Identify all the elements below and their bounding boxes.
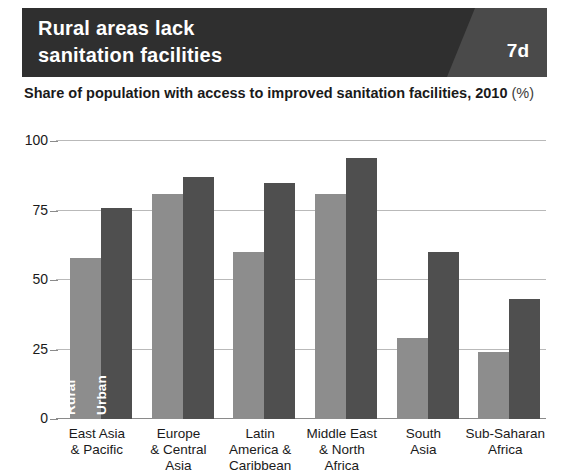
bar-rural[interactable] (233, 252, 264, 419)
bar-urban[interactable]: Urban (101, 208, 132, 419)
legend-label: Urban (94, 375, 109, 415)
bar-urban[interactable] (264, 183, 295, 419)
y-axis-tick-mark (50, 419, 58, 420)
y-axis-tick-mark (50, 280, 58, 281)
plot-area: RuralUrban (56, 141, 546, 419)
bar-group: RuralUrban (70, 141, 132, 419)
y-axis-tick-mark (50, 211, 58, 212)
page-title: Rural areas lack sanitation facilities (38, 15, 418, 69)
bar-chart: RuralUrban 0255075100 East Asia & Pacifi… (0, 0, 563, 473)
y-axis-tick-label: 25 (10, 342, 48, 356)
bar-group (233, 141, 295, 419)
legend-urban: Urban (101, 359, 132, 415)
y-axis-tick-label: 100 (10, 133, 48, 147)
bar-rural[interactable] (397, 338, 428, 419)
bar-urban[interactable] (428, 252, 459, 419)
bar-group (152, 141, 214, 419)
x-axis-category-label: Sub-Saharan Africa (456, 426, 554, 458)
bar-urban[interactable] (346, 158, 377, 419)
y-axis-tick-label: 75 (10, 203, 48, 217)
bar-rural[interactable] (478, 352, 509, 419)
bar-group (397, 141, 459, 419)
bar-urban[interactable] (509, 299, 540, 419)
y-axis-tick-mark (50, 350, 58, 351)
bar-rural[interactable] (315, 194, 346, 419)
legend-label: Rural (63, 379, 78, 415)
figure-number-badge: 7d (507, 40, 529, 62)
bar-urban[interactable] (183, 177, 214, 419)
y-axis-tick-label: 0 (10, 411, 48, 425)
y-axis-tick-label: 50 (10, 272, 48, 286)
bar-rural[interactable] (152, 194, 183, 419)
bar-group (478, 141, 540, 419)
y-axis-tick-mark (50, 141, 58, 142)
bar-group (315, 141, 377, 419)
